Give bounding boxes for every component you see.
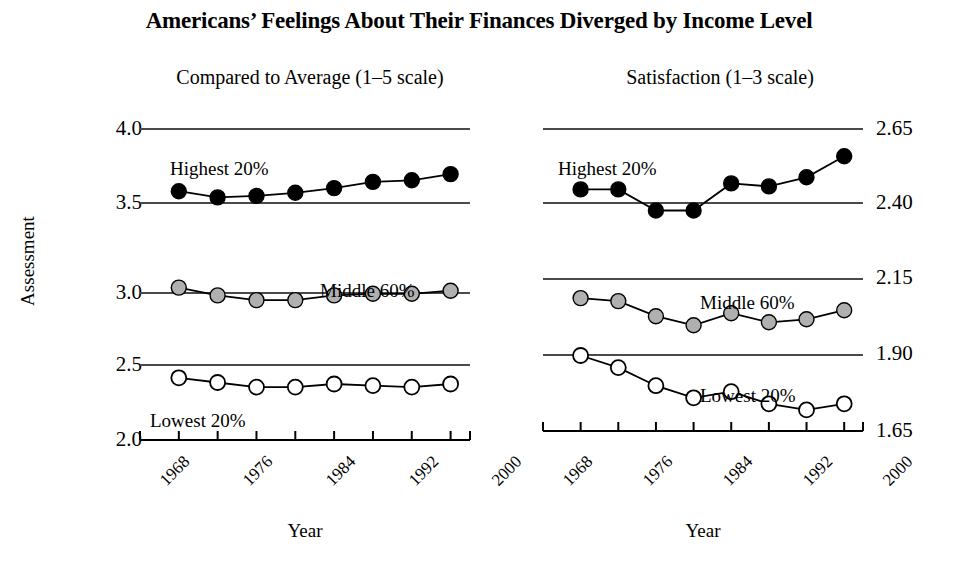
data-point <box>443 167 458 182</box>
data-point <box>171 370 186 385</box>
data-point <box>365 378 380 393</box>
series-label-left-2: Lowest 20% <box>150 410 246 432</box>
data-point <box>648 203 663 218</box>
data-point <box>611 360 626 375</box>
data-point <box>799 402 814 417</box>
data-point <box>404 173 419 188</box>
data-point <box>686 318 701 333</box>
data-point <box>573 182 588 197</box>
data-point <box>249 293 264 308</box>
data-point <box>837 149 852 164</box>
data-point <box>327 181 342 196</box>
series-label-right-3: Highest 20% <box>558 158 657 180</box>
data-point <box>611 182 626 197</box>
data-point <box>210 288 225 303</box>
data-point <box>799 312 814 327</box>
data-point <box>249 380 264 395</box>
plot-area <box>0 0 958 578</box>
data-point <box>210 190 225 205</box>
data-point <box>686 390 701 405</box>
data-point <box>288 380 303 395</box>
data-point <box>573 291 588 306</box>
data-point <box>648 378 663 393</box>
chart-figure: Americans’ Feelings About Their Finances… <box>0 0 958 578</box>
data-point <box>573 348 588 363</box>
data-point <box>365 174 380 189</box>
data-point <box>837 303 852 318</box>
data-point <box>799 170 814 185</box>
series-label-right-4: Middle 60% <box>700 292 794 314</box>
series-label-left-0: Highest 20% <box>170 158 269 180</box>
data-point <box>249 188 264 203</box>
data-point <box>327 377 342 392</box>
data-point <box>648 309 663 324</box>
data-point <box>171 184 186 199</box>
data-point <box>443 377 458 392</box>
data-point <box>761 315 776 330</box>
data-point <box>288 185 303 200</box>
series-label-left-1: Middle 60% <box>320 280 414 302</box>
data-point <box>724 176 739 191</box>
data-point <box>837 396 852 411</box>
data-point <box>210 375 225 390</box>
data-point <box>171 280 186 295</box>
data-point <box>443 283 458 298</box>
series-label-right-5: Lowest 20% <box>700 385 796 407</box>
data-point <box>288 293 303 308</box>
data-point <box>404 380 419 395</box>
data-point <box>611 294 626 309</box>
data-point <box>686 203 701 218</box>
data-point <box>761 179 776 194</box>
